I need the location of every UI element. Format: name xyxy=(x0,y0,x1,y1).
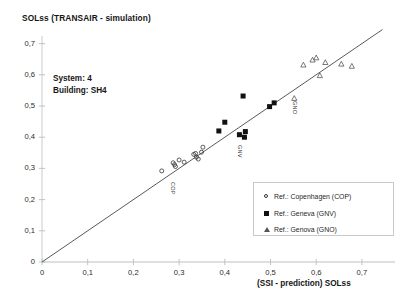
legend-item-cop[interactable]: Ref.: Copenhagen (COP) xyxy=(262,192,351,201)
data-point xyxy=(241,94,246,99)
x-axis-tick-label: 0 xyxy=(29,268,55,277)
point-label-gno: GNO xyxy=(292,101,298,114)
series-GNO xyxy=(292,55,355,100)
series-COP xyxy=(160,145,205,173)
point-label-cop: COP xyxy=(170,182,176,195)
point-label-gnv: GNV xyxy=(237,145,243,158)
y-axis-tick-label: 0,3 xyxy=(9,163,35,172)
legend-item-gnv[interactable]: Ref.: Geneva (GNV) xyxy=(262,209,336,218)
data-point xyxy=(243,129,248,134)
annotation-line: Building: SH4 xyxy=(53,85,107,97)
filled-square-icon xyxy=(262,209,273,218)
system-building-annotation: System: 4Building: SH4 xyxy=(53,73,107,96)
data-point xyxy=(301,62,306,67)
data-point xyxy=(267,104,272,109)
data-point xyxy=(349,63,354,68)
legend-item-label: Ref.: Copenhagen (COP) xyxy=(274,193,351,200)
legend-item-label: Ref.: Geneva (GNV) xyxy=(274,210,336,217)
data-point xyxy=(242,135,247,140)
open-circle-icon xyxy=(262,192,273,201)
chart-legend: Ref.: Copenhagen (COP) Ref.: Geneva (GNV… xyxy=(253,182,394,236)
legend-item-gno[interactable]: Ref.: Genova (GNO) xyxy=(262,225,337,234)
x-axis-tick-label: 0,2 xyxy=(120,268,146,277)
y-axis-tick-label: 0,7 xyxy=(9,39,35,48)
data-point xyxy=(314,55,319,60)
data-point xyxy=(216,128,221,133)
x-axis-tick-label: 0,1 xyxy=(75,268,101,277)
annotation-line: System: 4 xyxy=(53,73,107,85)
data-point xyxy=(182,160,186,164)
data-point xyxy=(237,132,242,137)
legend-item-label: Ref.: Genova (GNO) xyxy=(274,226,337,233)
x-axis-title: (SSI - prediction) SOLss xyxy=(257,279,351,288)
plot-canvas xyxy=(0,0,405,297)
x-axis-tick-label: 0,6 xyxy=(303,268,329,277)
x-axis-tick-label: 0,3 xyxy=(166,268,192,277)
y-axis-tick-label: 0,2 xyxy=(9,195,35,204)
series-GNV xyxy=(216,94,276,140)
scatter-chart: SOLss (TRANSAIR - simulation) 00,10,20,3… xyxy=(0,0,405,297)
data-point xyxy=(292,96,297,101)
data-point xyxy=(160,169,164,173)
data-point xyxy=(222,120,227,125)
data-point xyxy=(177,158,181,162)
data-point xyxy=(272,100,277,105)
y-axis-tick-label: 0 xyxy=(9,257,35,266)
data-point xyxy=(339,61,344,66)
x-axis-tick-label: 0,4 xyxy=(212,268,238,277)
y-axis-tick-label: 0,6 xyxy=(9,70,35,79)
y-axis-tick-label: 0,1 xyxy=(9,226,35,235)
y-axis-tick-label: 0,5 xyxy=(9,101,35,110)
open-triangle-icon xyxy=(262,225,273,234)
x-axis-tick-label: 0,7 xyxy=(349,268,375,277)
data-point xyxy=(201,145,205,149)
y-axis-tick-label: 0,4 xyxy=(9,132,35,141)
x-axis-tick-label: 0,5 xyxy=(258,268,284,277)
data-point xyxy=(323,60,328,65)
